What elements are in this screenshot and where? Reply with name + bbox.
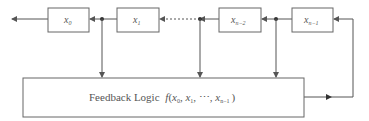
feedback-label: Feedback Logic f(x0, x1, ⋯, xn−1) xyxy=(89,91,236,104)
shift-register-diagram: x0 x1 xn−2 xn−1 Feedback Logic f(x0, x1,… xyxy=(0,0,369,121)
register-xn1: xn−1 xyxy=(292,8,333,32)
register-xn2: xn−2 xyxy=(219,8,261,32)
feedback-logic-box: Feedback Logic f(x0, x1, ⋯, xn−1) xyxy=(23,78,304,117)
register-x1: x1 xyxy=(117,8,159,32)
feedback-output-arrowhead xyxy=(326,94,332,100)
register-x0: x0 xyxy=(48,8,89,32)
